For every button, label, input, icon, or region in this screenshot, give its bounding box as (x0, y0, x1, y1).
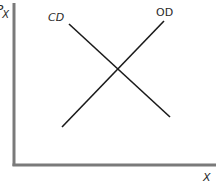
x-axis-label: X (203, 172, 211, 183)
od-curve-label: OD (156, 7, 173, 18)
diagram-canvas (0, 0, 216, 185)
od-curve (62, 21, 164, 127)
y-axis-label: PX (0, 4, 10, 16)
y-axis-label-subscript: X (2, 9, 9, 20)
supply-demand-diagram: PX X CD OD (0, 0, 216, 185)
cd-curve-label: CD (48, 12, 64, 23)
